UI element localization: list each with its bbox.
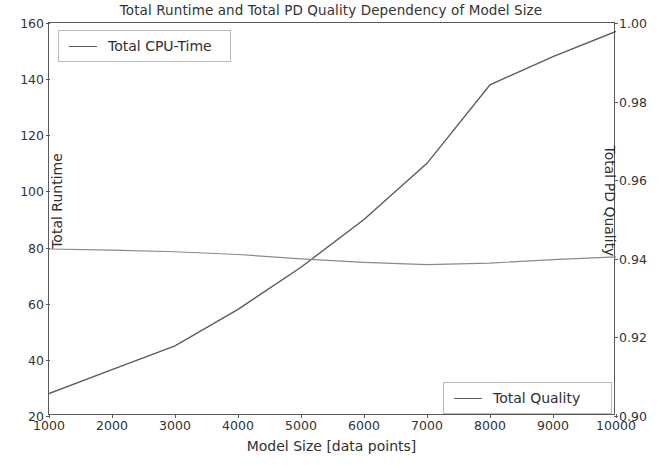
y-tick-right: 1.00 [619,16,647,31]
chart-title: Total Runtime and Total PD Quality Depen… [0,2,662,18]
x-tickmark [238,414,239,418]
x-tickmark [49,414,50,418]
x-tickmark [301,414,302,418]
y-tick-left: 60 [28,296,44,311]
x-tick: 5000 [285,418,317,433]
y-tickmark-right [614,23,618,24]
x-tick: 8000 [474,418,506,433]
x-tick: 1000 [33,418,65,433]
x-tickmark [553,414,554,418]
x-tick: 4000 [222,418,254,433]
y-tick-right: 0.94 [619,251,647,266]
legend-line-swatch-cpu [69,46,97,47]
plot-lines [49,23,616,416]
x-tickmark [616,414,617,418]
legend-total-cpu-time: Total CPU-Time [58,30,231,62]
line-total-quality [49,249,616,265]
legend-total-quality: Total Quality [443,382,612,414]
y-tick-right: 0.96 [619,173,647,188]
x-tick: 7000 [411,418,443,433]
legend-label-quality: Total Quality [493,390,580,406]
x-tick: 6000 [348,418,380,433]
y-tick-left: 100 [20,184,44,199]
x-tick: 9000 [537,418,569,433]
y-tick-left: 160 [20,16,44,31]
x-tick: 3000 [159,418,191,433]
line-total-cpu-time [49,31,616,393]
legend-label-cpu: Total CPU-Time [108,38,212,54]
x-tickmark [364,414,365,418]
chart-figure: Total Runtime and Total PD Quality Depen… [0,0,662,465]
y-axis-right-label: Total PD Quality [602,51,618,351]
y-tick-right: 0.98 [619,94,647,109]
y-tick-left: 40 [28,352,44,367]
y-tick-right: 0.92 [619,330,647,345]
x-tickmark [427,414,428,418]
legend-line-swatch-quality [454,398,482,399]
y-tick-left: 120 [20,128,44,143]
y-axis-left-label: Total Runtime [49,51,65,351]
y-tickmark-left [46,360,50,361]
x-tick: 10000 [596,418,636,433]
x-tickmark [112,414,113,418]
plot-area: 20406080100120140160 0.900.920.940.960.9… [48,22,615,415]
y-tick-left: 80 [28,240,44,255]
x-tickmark [175,414,176,418]
x-tickmark [490,414,491,418]
y-tick-left: 140 [20,72,44,87]
x-tick: 2000 [96,418,128,433]
x-axis-label: Model Size [data points] [48,438,615,454]
y-tickmark-left [46,23,50,24]
